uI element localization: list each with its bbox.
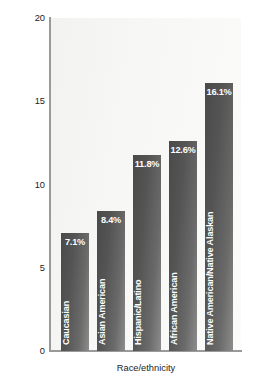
y-tick-10: 10 <box>28 180 45 190</box>
y-axis-tick-labels: 20 15 10 5 0 <box>28 0 45 382</box>
bar-hispanic-latino[interactable]: 11.8% Hispanic/Latino <box>133 155 161 351</box>
bar-african-american[interactable]: 12.6% African American <box>169 141 197 351</box>
bar-category-label: Native American/Native Alaskan <box>206 212 215 345</box>
y-tick-5: 5 <box>28 263 45 273</box>
bar-value-label: 12.6% <box>169 145 197 155</box>
y-tick-0: 0 <box>28 346 45 356</box>
bar-series: 7.1% Caucasian 8.4% Asian American 11.8%… <box>51 18 241 351</box>
bar-value-label: 7.1% <box>61 237 89 247</box>
bar-value-label: 11.8% <box>133 159 161 169</box>
x-axis-title: Race/ethnicity <box>51 363 241 373</box>
bar-chart: Percentage (%) of adults with type 2 dia… <box>0 0 261 382</box>
bar-native-american-native-alaskan[interactable]: 16.1% Native American/Native Alaskan <box>205 83 233 351</box>
bar-value-label: 16.1% <box>205 87 233 97</box>
bar-value-label: 8.4% <box>97 215 125 225</box>
bar-category-label: Hispanic/Latino <box>134 279 143 345</box>
bar-category-label: Asian American <box>98 279 107 345</box>
bar-asian-american[interactable]: 8.4% Asian American <box>97 211 125 351</box>
bar-category-label: Caucasian <box>62 301 71 345</box>
bar-category-label: African American <box>170 272 179 345</box>
y-tick-15: 15 <box>28 96 45 106</box>
bar-caucasian[interactable]: 7.1% Caucasian <box>61 233 89 351</box>
y-tick-20: 20 <box>28 13 45 23</box>
